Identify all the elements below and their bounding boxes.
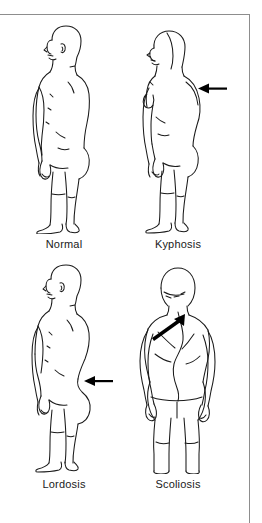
lordosis-figure-illustration <box>8 262 120 474</box>
figure-kyphosis: Kyphosis <box>122 22 234 254</box>
scoliosis-figure-illustration <box>122 262 234 474</box>
figure-label-kyphosis: Kyphosis <box>122 238 234 250</box>
frame-top-rule <box>0 14 250 15</box>
lordosis-arrow-icon <box>84 376 113 386</box>
figure-normal: Normal <box>8 22 120 254</box>
kyphosis-arrow-icon <box>198 84 227 94</box>
diagram-frame: Normal <box>0 0 262 523</box>
scoliosis-arrow-icon <box>152 314 185 341</box>
kyphosis-figure-illustration <box>122 22 234 234</box>
figure-label-lordosis: Lordosis <box>8 478 120 490</box>
figure-label-normal: Normal <box>8 238 120 250</box>
figure-scoliosis: Scoliosis <box>122 262 234 494</box>
frame-right-rule <box>249 14 250 523</box>
figure-label-scoliosis: Scoliosis <box>122 478 234 490</box>
normal-figure-illustration <box>8 22 120 234</box>
figure-lordosis: Lordosis <box>8 262 120 494</box>
